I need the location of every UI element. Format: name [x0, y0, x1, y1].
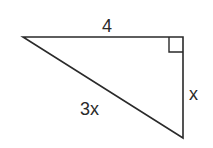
right-side-label: x [189, 84, 198, 104]
top-side-label: 4 [102, 16, 112, 36]
right-angle-marker [169, 37, 183, 52]
triangle-outline [23, 37, 183, 138]
triangle-diagram: 4 x 3x [0, 0, 213, 148]
hypotenuse-label: 3x [80, 99, 99, 119]
